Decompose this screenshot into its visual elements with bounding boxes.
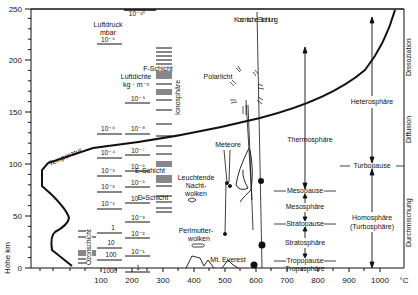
y-axis-label: Höhe km: [3, 242, 12, 274]
diffusion-label: Diffusion: [405, 116, 412, 143]
temperature-label: Temperatur: [48, 146, 84, 168]
ionosphere-bars: [156, 48, 172, 212]
mesosphere-label: Mesosphäre: [286, 203, 325, 211]
y-tick-200: 200: [9, 56, 23, 65]
nlc-label-1: Leuchtende: [178, 174, 215, 181]
x-tick-200: 200: [125, 276, 139, 285]
temperature-curve: [42, 10, 395, 266]
pressure-value: 100: [106, 251, 117, 258]
density-value: 10⁻⁸: [131, 125, 145, 132]
y-tick-150: 150: [9, 108, 23, 117]
pressure-value: 1: [111, 224, 115, 231]
heterosphere-label: Heterosphäre: [351, 98, 394, 106]
density-value: 10⁻⁵: [131, 179, 145, 186]
nlc-label-2: Nacht-: [186, 182, 207, 189]
x-tick-100: 100: [94, 276, 108, 285]
pressure-value: 10⁻²: [101, 183, 115, 190]
density-value: 10⁻⁷: [131, 147, 145, 154]
density-title: Luftdichte: [121, 73, 151, 80]
pressure-unit: mbar: [100, 29, 117, 36]
plot-frame: [31, 9, 404, 268]
x-tick-1000: 1000: [371, 276, 389, 285]
homosphere-label: Homosphäre: [352, 214, 392, 222]
psc-label-2: wolken: [187, 235, 210, 242]
x-tick-700: 700: [280, 276, 294, 285]
density-value: 10⁻³: [131, 214, 145, 221]
atmosphere-diagram: 0 50 100 150 200 250 Höhe km 100 200 300…: [0, 0, 418, 295]
x-axis-unit: °C: [400, 276, 409, 285]
y-tick-100: 100: [9, 160, 23, 169]
everest-label: Mt. Everest: [210, 256, 245, 263]
cosmic-radiation-label: Kosmische Strahlung: [234, 16, 278, 24]
stratosphere-label: Stratosphäre: [285, 239, 325, 247]
pressure-value: 10⁻¹: [101, 200, 115, 207]
pressure-value: 1000: [103, 267, 118, 274]
thermosphere-label: Thermosphäre: [287, 136, 333, 144]
cosmic-ray-lines: [246, 12, 262, 268]
y-tick-50: 50: [13, 212, 22, 221]
aurora-label: Polarlicht: [204, 73, 233, 80]
mixing-label: Durchmischung: [405, 198, 413, 247]
d-layer-label: D-Schicht: [138, 194, 168, 201]
x-axis-ticks: [40, 268, 380, 272]
meteors-label: Meteore: [215, 141, 241, 148]
density-unit: kg · m⁻³: [123, 81, 149, 89]
x-tick-300: 300: [156, 276, 170, 285]
nlc-label-3: wolken: [184, 190, 207, 197]
pressure-value: 10: [107, 239, 115, 246]
x-tick-900: 900: [342, 276, 356, 285]
dissociation-label: Dissoziation: [405, 38, 412, 76]
pressure-value: 10⁻³: [101, 167, 115, 174]
x-tick-400: 400: [187, 276, 201, 285]
turbosphere-label: (Turbosphäre): [350, 223, 394, 231]
psc-label-1: Perlmutter-: [179, 227, 214, 234]
density-value: 10⁻⁹: [131, 95, 145, 102]
psc-cloud-icon: [192, 244, 204, 247]
x-tick-500: 500: [218, 276, 232, 285]
pressure-value: 10⁻⁵: [101, 125, 115, 132]
pressure-value: 10⁻⁶: [101, 36, 115, 43]
x-tick-600: 600: [249, 276, 263, 285]
y-axis-ticks: [25, 9, 31, 268]
diagram-canvas: 0 50 100 150 200 250 Höhe km 100 200 300…: [0, 0, 418, 295]
meteor-trails: [223, 150, 231, 236]
density-value: 10⁻¹⁰: [129, 10, 145, 17]
ozone-label: Ozonschicht: [85, 229, 92, 265]
pressure-title: Luftdruck: [94, 21, 123, 28]
troposphere-label: Troposphäre: [285, 265, 325, 273]
f-layer-label: F-Schicht: [143, 65, 173, 72]
y-tick-0: 0: [18, 264, 23, 273]
density-value: 1: [136, 264, 140, 271]
x-tick-800: 800: [311, 276, 325, 285]
y-tick-250: 250: [9, 5, 23, 14]
ionosphere-label: Ionosphäre: [174, 80, 182, 115]
density-value: 10⁻¹: [131, 248, 145, 255]
density-value: 10⁻²: [131, 230, 145, 237]
e-layer-label: E-Schicht: [135, 167, 165, 174]
nlc-cloud-icon: [188, 198, 196, 202]
pressure-value: 10⁻⁴: [101, 149, 115, 156]
